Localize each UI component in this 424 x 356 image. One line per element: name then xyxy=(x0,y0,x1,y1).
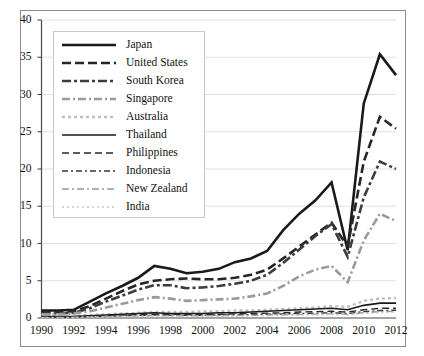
legend-swatch-south-korea xyxy=(61,76,117,86)
y-tick-label: 5 xyxy=(6,275,32,287)
legend-label: India xyxy=(126,201,150,213)
legend-swatch-japan xyxy=(61,40,117,50)
x-tick-label: 1992 xyxy=(57,325,91,337)
legend-item-indonesia[interactable]: Indonesia xyxy=(54,162,204,180)
y-tick-label: 10 xyxy=(6,238,32,250)
legend-swatch-indonesia xyxy=(61,166,117,176)
x-tick-label: 2002 xyxy=(218,325,252,337)
y-tick-label: 15 xyxy=(6,200,32,212)
y-tick-label: 25 xyxy=(6,126,32,138)
legend-swatch-new-zealand xyxy=(61,184,117,194)
y-tick-label: 40 xyxy=(6,14,32,26)
x-tick-label: 2004 xyxy=(250,325,284,337)
x-tick-label: 1990 xyxy=(25,325,59,337)
legend-label: Australia xyxy=(126,111,168,123)
legend-label: New Zealand xyxy=(126,183,188,195)
chart-legend: JapanUnited StatesSouth KoreaSingaporeAu… xyxy=(53,31,205,218)
x-tick-label: 1996 xyxy=(121,325,155,337)
legend-label: South Korea xyxy=(126,75,184,87)
legend-swatch-singapore xyxy=(61,94,117,104)
legend-swatch-australia xyxy=(61,112,117,122)
x-tick-label: 2006 xyxy=(282,325,316,337)
legend-swatch-philippines xyxy=(61,148,117,158)
legend-item-united-states[interactable]: United States xyxy=(54,54,204,72)
legend-label: Singapore xyxy=(126,93,173,105)
x-tick-label: 2008 xyxy=(315,325,349,337)
x-tick-label: 1998 xyxy=(153,325,187,337)
y-tick-label: 30 xyxy=(6,89,32,101)
legend-label: Japan xyxy=(126,39,152,51)
legend-item-thailand[interactable]: Thailand xyxy=(54,126,204,144)
legend-label: Indonesia xyxy=(126,165,171,177)
x-tick-label: 1994 xyxy=(89,325,123,337)
legend-item-australia[interactable]: Australia xyxy=(54,108,204,126)
legend-swatch-united-states xyxy=(61,58,117,68)
y-tick-label: 0 xyxy=(6,312,32,324)
legend-item-south-korea[interactable]: South Korea xyxy=(54,72,204,90)
legend-item-new-zealand[interactable]: New Zealand xyxy=(54,180,204,198)
legend-item-singapore[interactable]: Singapore xyxy=(54,90,204,108)
legend-item-japan[interactable]: Japan xyxy=(54,36,204,54)
x-tick-label: 2012 xyxy=(379,325,413,337)
chart-figure: 0510152025303540 19901992199419961998200… xyxy=(0,0,424,356)
x-tick-label: 2000 xyxy=(186,325,220,337)
legend-label: United States xyxy=(126,57,188,69)
legend-swatch-thailand xyxy=(61,130,117,140)
legend-swatch-india xyxy=(61,202,117,212)
x-tick-label: 2010 xyxy=(347,325,381,337)
legend-label: Thailand xyxy=(126,129,167,141)
legend-label: Philippines xyxy=(126,147,178,159)
legend-item-philippines[interactable]: Philippines xyxy=(54,144,204,162)
y-tick-label: 20 xyxy=(6,163,32,175)
y-tick-label: 35 xyxy=(6,51,32,63)
legend-item-india[interactable]: India xyxy=(54,198,204,216)
